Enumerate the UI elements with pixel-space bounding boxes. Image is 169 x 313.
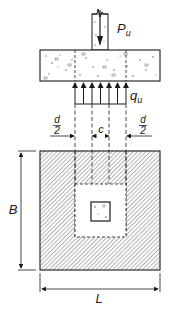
elevation-view: Pu	[40, 9, 160, 105]
pressure-label: qu	[130, 88, 142, 105]
length-dimension: L	[40, 273, 160, 306]
soil-pressure-arrows	[75, 83, 126, 104]
length-label: L	[95, 291, 102, 306]
column-width-label: c	[98, 123, 104, 135]
column-plan	[91, 202, 110, 221]
width-dimension: B	[7, 151, 36, 270]
critical-section-dimensions: d 2 c d 2	[50, 114, 152, 136]
svg-text:2: 2	[139, 125, 146, 136]
load-label: Pu	[117, 21, 131, 38]
footing-diagram: Pu	[0, 0, 169, 313]
svg-text:2: 2	[53, 125, 60, 136]
footing-slab	[40, 50, 160, 81]
right-d-label: d	[140, 114, 146, 125]
width-label: B	[9, 202, 18, 217]
left-d-label: d	[54, 114, 60, 125]
plan-view	[40, 151, 160, 270]
